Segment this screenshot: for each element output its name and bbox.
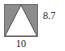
triangle-in-square-graphic [0, 0, 65, 51]
base-dimension-label: 10 [14, 39, 28, 49]
geometry-figure: 8.7 10 [0, 0, 65, 51]
height-dimension-label: 8.7 [43, 11, 56, 21]
